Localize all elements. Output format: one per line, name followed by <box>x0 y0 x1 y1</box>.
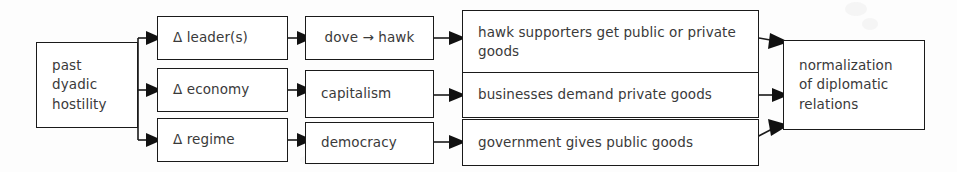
node-label: government gives public goods <box>478 133 750 152</box>
node-change-leaders[interactable]: Δ leader(s) <box>157 16 288 60</box>
node-label: dove → hawk <box>325 28 415 47</box>
node-label: businesses demand private goods <box>478 85 750 104</box>
node-label: capitalism <box>321 84 425 103</box>
flow-diagram: past dyadic hostility Δ leader(s) Δ econ… <box>0 0 957 172</box>
node-label: normalization of diplomatic relations <box>799 56 916 113</box>
node-past-dyadic-hostility[interactable]: past dyadic hostility <box>36 42 138 128</box>
node-democracy[interactable]: democracy <box>305 122 434 164</box>
node-label: past dyadic hostility <box>52 56 129 113</box>
node-label: democracy <box>321 133 425 152</box>
node-label: Δ economy <box>173 80 279 99</box>
node-government-gives-public-goods[interactable]: government gives public goods <box>462 119 759 166</box>
node-businesses-demand-private-goods[interactable]: businesses demand private goods <box>462 72 759 118</box>
node-change-regime[interactable]: Δ regime <box>157 118 288 162</box>
node-hawk-supporters-goods[interactable]: hawk supporters get public or private go… <box>462 10 759 73</box>
node-label: Δ regime <box>173 130 279 149</box>
node-normalization-of-diplomatic-relations[interactable]: normalization of diplomatic relations <box>783 40 925 130</box>
node-change-economy[interactable]: Δ economy <box>157 68 288 112</box>
node-label: Δ leader(s) <box>173 28 279 47</box>
node-label: hawk supporters get public or private go… <box>478 23 750 59</box>
node-dove-to-hawk[interactable]: dove → hawk <box>305 16 434 60</box>
node-capitalism[interactable]: capitalism <box>305 70 434 118</box>
